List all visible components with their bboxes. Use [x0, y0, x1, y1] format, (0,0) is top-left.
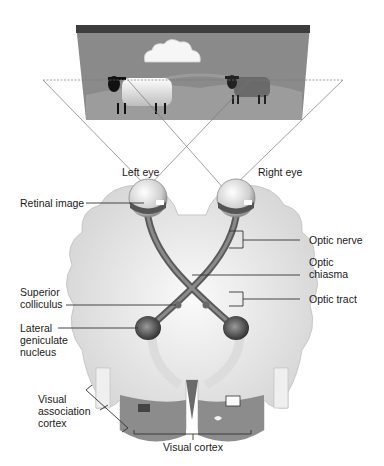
label-optic-nerve: Optic nerve	[309, 234, 363, 246]
label-vac-line1: Visual	[38, 393, 91, 405]
brain	[66, 185, 317, 441]
label-optic-chiasma: Optic chiasma	[309, 256, 348, 280]
label-vac-line3: cortex	[38, 417, 91, 429]
label-retinal-image: Retinal image	[20, 197, 84, 209]
label-superior-colliculus: Superior colliculus	[20, 286, 63, 310]
label-right-eye: Right eye	[258, 166, 302, 178]
label-optic-chiasma-line1: Optic	[309, 256, 348, 268]
right-lgn	[223, 316, 249, 340]
label-superior-colliculus-line2: colliculus	[20, 298, 63, 310]
left-lgn	[135, 316, 161, 340]
label-lgn-line3: nucleus	[20, 346, 68, 358]
right-eye	[217, 179, 255, 217]
left-eye	[129, 179, 167, 217]
label-optic-tract: Optic tract	[309, 293, 357, 305]
label-visual-association-cortex: Visual association cortex	[38, 393, 91, 429]
label-lgn-line1: Lateral	[20, 322, 68, 334]
label-superior-colliculus-line1: Superior	[20, 286, 63, 298]
label-visual-cortex: Visual cortex	[163, 441, 223, 453]
scene-picture	[76, 25, 310, 120]
label-lateral-geniculate-nucleus: Lateral geniculate nucleus	[20, 322, 68, 358]
label-vac-line2: association	[38, 405, 91, 417]
label-lgn-line2: geniculate	[20, 334, 68, 346]
label-left-eye: Left eye	[122, 166, 159, 178]
label-optic-chiasma-line2: chiasma	[309, 268, 348, 280]
